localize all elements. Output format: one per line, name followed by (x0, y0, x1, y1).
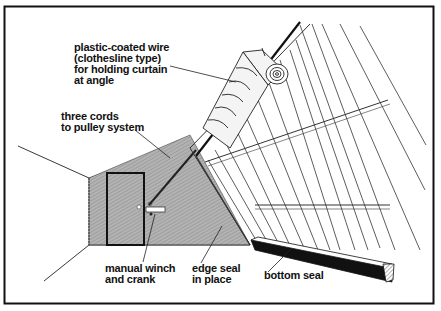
winch (146, 207, 165, 212)
diagram-canvas: plastic-coated wire (clothesline type) f… (0, 0, 441, 311)
label-plastic-coated-wire: plastic-coated wire (clothesline type) f… (74, 42, 169, 86)
curtain-roll (203, 48, 288, 148)
label-three-cords: three cords to pulley system (61, 111, 144, 133)
ceiling-perspective-line (18, 146, 89, 178)
label-bottom-seal: bottom seal (264, 270, 324, 281)
wire-leader (170, 66, 236, 82)
label-manual-winch: manual winch and crank (105, 263, 175, 285)
curtain-roll-end (266, 64, 288, 84)
floor-perspective-line (44, 245, 89, 281)
label-edge-seal: edge seal in place (192, 263, 240, 285)
frame-border (5, 7, 434, 304)
door-knob (137, 205, 141, 209)
